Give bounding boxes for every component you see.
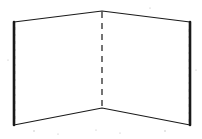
folded-panel-diagram: [0, 0, 202, 139]
figure-root: [0, 0, 202, 139]
right-panel-face: [102, 11, 190, 125]
left-panel-face: [14, 11, 102, 125]
